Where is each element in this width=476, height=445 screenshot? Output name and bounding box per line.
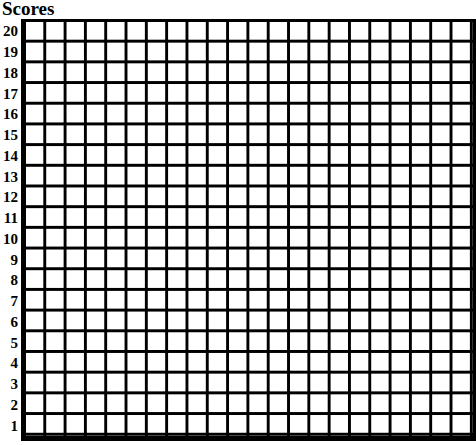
grid-cell bbox=[371, 22, 391, 43]
grid-cell bbox=[290, 353, 310, 374]
grid-cell bbox=[412, 105, 432, 126]
grid-cell bbox=[46, 250, 66, 271]
grid-cell bbox=[26, 291, 46, 312]
grid-cell bbox=[87, 208, 107, 229]
grid-cell bbox=[412, 43, 432, 64]
grid-cell bbox=[270, 395, 290, 416]
grid-cell bbox=[331, 250, 351, 271]
grid-cell bbox=[371, 333, 391, 354]
grid-cell bbox=[107, 208, 127, 229]
grid-cell bbox=[432, 374, 452, 395]
grid-cell bbox=[432, 291, 452, 312]
grid-cell bbox=[250, 333, 270, 354]
grid-cell bbox=[107, 188, 127, 209]
grid-cell bbox=[432, 63, 452, 84]
grid-cell bbox=[67, 146, 87, 167]
grid-cell bbox=[209, 312, 229, 333]
grid-cell bbox=[229, 415, 249, 436]
grid-cell bbox=[229, 312, 249, 333]
grid-cell bbox=[67, 291, 87, 312]
grid-cell bbox=[351, 291, 371, 312]
grid-cell bbox=[168, 43, 188, 64]
grid-cell bbox=[168, 63, 188, 84]
grid-cell bbox=[453, 333, 473, 354]
grid-cell bbox=[128, 291, 148, 312]
grid-cell bbox=[189, 188, 209, 209]
grid-cell bbox=[168, 250, 188, 271]
grid-cell bbox=[148, 43, 168, 64]
grid-cell bbox=[229, 188, 249, 209]
grid-cell bbox=[250, 415, 270, 436]
grid-cell bbox=[351, 188, 371, 209]
grid-cell bbox=[168, 312, 188, 333]
grid-cell bbox=[250, 291, 270, 312]
grid-cell bbox=[310, 167, 330, 188]
grid-cell bbox=[67, 353, 87, 374]
grid-cell bbox=[168, 22, 188, 43]
grid-cell bbox=[412, 146, 432, 167]
grid-cell bbox=[310, 63, 330, 84]
grid-cell bbox=[270, 291, 290, 312]
grid-cell bbox=[46, 333, 66, 354]
grid-cell bbox=[128, 105, 148, 126]
grid-cell bbox=[290, 43, 310, 64]
grid-cell bbox=[229, 374, 249, 395]
grid-cell bbox=[290, 105, 310, 126]
grid-cell bbox=[148, 105, 168, 126]
grid-cell bbox=[310, 312, 330, 333]
grid-cell bbox=[148, 188, 168, 209]
grid-cell bbox=[168, 105, 188, 126]
grid-cell bbox=[46, 374, 66, 395]
grid-cell bbox=[26, 353, 46, 374]
y-axis-label: 14 bbox=[3, 148, 18, 164]
grid-cell bbox=[310, 250, 330, 271]
grid-cell bbox=[371, 374, 391, 395]
grid-cell bbox=[453, 291, 473, 312]
grid-cell bbox=[168, 291, 188, 312]
grid-cell bbox=[250, 229, 270, 250]
grid-cell bbox=[87, 353, 107, 374]
grid-cell bbox=[87, 312, 107, 333]
grid-cell bbox=[209, 374, 229, 395]
grid-cell bbox=[87, 22, 107, 43]
grid-cell bbox=[148, 395, 168, 416]
grid-cell bbox=[432, 146, 452, 167]
grid-cell bbox=[290, 374, 310, 395]
grid-cell bbox=[189, 43, 209, 64]
grid-cell bbox=[128, 250, 148, 271]
grid-cell bbox=[310, 105, 330, 126]
grid-cell bbox=[392, 63, 412, 84]
grid-cell bbox=[351, 395, 371, 416]
grid-cell bbox=[331, 291, 351, 312]
grid-cell bbox=[26, 105, 46, 126]
grid-cell bbox=[148, 374, 168, 395]
y-axis-label: 2 bbox=[11, 397, 19, 413]
grid-cell bbox=[46, 395, 66, 416]
grid-cell bbox=[310, 84, 330, 105]
grid-cell bbox=[290, 146, 310, 167]
grid-cell bbox=[371, 105, 391, 126]
grid-cell bbox=[46, 353, 66, 374]
grid-cell bbox=[310, 415, 330, 436]
grid-cell bbox=[290, 415, 310, 436]
y-axis-label: 10 bbox=[3, 231, 18, 247]
grid-cell bbox=[209, 43, 229, 64]
grid-cell bbox=[392, 374, 412, 395]
grid-cell bbox=[209, 333, 229, 354]
grid-cell bbox=[331, 374, 351, 395]
grid-cell bbox=[270, 126, 290, 147]
grid-cell bbox=[290, 395, 310, 416]
grid-cell bbox=[148, 126, 168, 147]
grid-cell bbox=[107, 270, 127, 291]
grid-cell bbox=[270, 312, 290, 333]
grid-cell bbox=[87, 291, 107, 312]
grid-cell bbox=[189, 146, 209, 167]
grid-cell bbox=[46, 270, 66, 291]
grid-cell bbox=[148, 291, 168, 312]
grid-cell bbox=[412, 291, 432, 312]
grid-cell bbox=[107, 374, 127, 395]
grid-cell bbox=[46, 312, 66, 333]
y-axis-label: 20 bbox=[3, 23, 18, 39]
grid-cell bbox=[189, 291, 209, 312]
grid-cell bbox=[290, 250, 310, 271]
